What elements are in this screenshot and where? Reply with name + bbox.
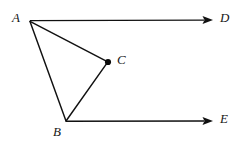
ray-endpoint-label-e: E <box>220 112 228 125</box>
geometry-figure: A B C D E <box>0 0 250 143</box>
point-c-dot <box>105 59 111 65</box>
segment-c-to-b <box>66 62 108 121</box>
segment-a-to-b <box>30 21 66 121</box>
vertex-label-c: C <box>117 53 126 66</box>
vertex-label-b: B <box>53 125 61 138</box>
arrowhead-d-icon <box>203 16 214 24</box>
figure-canvas <box>0 0 250 143</box>
ray-endpoint-label-d: D <box>220 11 229 24</box>
ray-a-to-d <box>30 20 204 21</box>
arrowhead-e-icon <box>203 117 214 125</box>
vertex-label-a: A <box>12 11 20 24</box>
